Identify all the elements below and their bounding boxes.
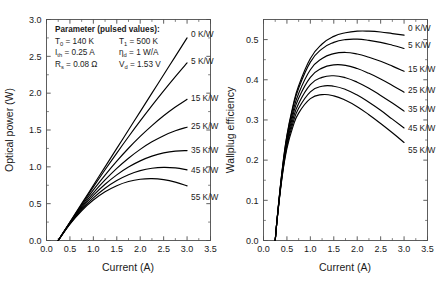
- annotation-param: Ith = 0.25 A: [55, 48, 95, 58]
- curve-label-55KW: 55 K/W: [408, 145, 435, 155]
- annotation-title: Parameter (pulsed values):: [55, 25, 160, 34]
- y-tick-label: 0.4: [246, 75, 259, 85]
- x-tick-label: 1.5: [111, 244, 124, 254]
- x-tick-label: 1.0: [304, 244, 317, 254]
- curve-label-0KW: 0 K/W: [408, 23, 431, 33]
- data-curves: [275, 31, 404, 241]
- curve-label-0KW: 0 K/W: [191, 29, 214, 39]
- x-tick-label: 2.5: [374, 244, 387, 254]
- figure-container: 0.00.51.01.52.02.53.03.50.00.51.01.52.02…: [0, 0, 446, 289]
- curve-label-25KW: 25 K/W: [191, 121, 218, 131]
- y-axis-title: Optical power (W): [3, 88, 15, 172]
- curve-label-5KW: 5 K/W: [408, 40, 431, 50]
- curve-labels: 0 K/W5 K/W15 K/W25 K/W35 K/W45 K/W55 K/W: [191, 29, 218, 202]
- y-axis-title: Wallplug efficiency: [224, 86, 236, 173]
- panel-wallplug-efficiency: 0.00.51.01.52.02.53.03.50.00.10.20.30.40…: [223, 0, 446, 289]
- panel-optical-power: 0.00.51.01.52.02.53.03.50.00.51.01.52.02…: [0, 0, 223, 289]
- curve-label-35KW: 35 K/W: [408, 104, 435, 114]
- y-tick-label: 1.5: [29, 125, 42, 135]
- y-tick-label: 1.0: [29, 162, 42, 172]
- x-tick-label: 1.5: [328, 244, 341, 254]
- curve-45KW: [58, 167, 187, 240]
- curve-label-45KW: 45 K/W: [191, 165, 218, 175]
- y-tick-label: 3.0: [29, 15, 42, 25]
- curve-5KW: [275, 39, 404, 240]
- y-tick-label: 0.0: [29, 236, 42, 246]
- x-tick-label: 3.5: [421, 244, 434, 254]
- curve-label-15KW: 15 K/W: [408, 64, 435, 74]
- axis-tick-labels: 0.00.51.01.52.02.53.03.50.00.10.20.30.40…: [246, 35, 434, 254]
- x-tick-label: 0.5: [281, 244, 294, 254]
- x-tick-label: 3.0: [398, 244, 411, 254]
- curve-label-35KW: 35 K/W: [191, 145, 218, 155]
- right-axis-group: 0.00.51.01.52.02.53.03.50.00.10.20.30.40…: [246, 20, 434, 254]
- x-axis-title: Current (A): [102, 261, 154, 273]
- annotation-param: Vd = 1.53 V: [119, 60, 161, 70]
- x-tick-label: 0.5: [64, 244, 77, 254]
- annotation-param: Rs = 0.08 Ω: [55, 60, 98, 70]
- annotation-param: ηd = 1 W/A: [119, 48, 159, 58]
- y-tick-label: 2.0: [29, 88, 42, 98]
- y-tick-label: 0.0: [246, 236, 259, 246]
- curve-label-15KW: 15 K/W: [191, 93, 218, 103]
- curve-label-5KW: 5 K/W: [191, 56, 214, 66]
- x-tick-label: 3.5: [204, 244, 217, 254]
- wallplug-efficiency-plot: 0.00.51.01.52.02.53.03.50.00.10.20.30.40…: [223, 0, 446, 289]
- x-tick-label: 2.0: [134, 244, 147, 254]
- x-tick-label: 0.0: [257, 244, 270, 254]
- x-tick-label: 2.0: [351, 244, 364, 254]
- x-tick-label: 2.5: [157, 244, 170, 254]
- curve-35KW: [58, 151, 187, 241]
- y-tick-label: 0.1: [246, 196, 259, 206]
- annotation-param: T1 = 500 K: [119, 37, 159, 47]
- x-axis-title: Current (A): [319, 261, 371, 273]
- x-tick-label: 1.0: [87, 244, 100, 254]
- optical-power-plot: 0.00.51.01.52.02.53.03.50.00.51.01.52.02…: [0, 0, 223, 289]
- x-tick-label: 0.0: [40, 244, 53, 254]
- curve-label-25KW: 25 K/W: [408, 85, 435, 95]
- y-tick-label: 2.5: [29, 52, 42, 62]
- curve-25KW: [275, 65, 404, 241]
- x-tick-label: 3.0: [181, 244, 194, 254]
- parameter-annotation: Parameter (pulsed values):T0 = 140 KT1 =…: [55, 25, 161, 70]
- annotation-param: T0 = 140 K: [55, 37, 95, 47]
- curve-label-55KW: 55 K/W: [191, 192, 218, 202]
- y-tick-label: 0.3: [246, 115, 259, 125]
- y-tick-label: 0.2: [246, 155, 259, 165]
- y-tick-label: 0.5: [246, 35, 259, 45]
- curve-labels: 0 K/W5 K/W15 K/W25 K/W35 K/W45 K/W55 K/W: [408, 23, 435, 155]
- curve-label-45KW: 45 K/W: [408, 123, 435, 133]
- curve-15KW: [58, 99, 187, 240]
- y-tick-label: 0.5: [29, 199, 42, 209]
